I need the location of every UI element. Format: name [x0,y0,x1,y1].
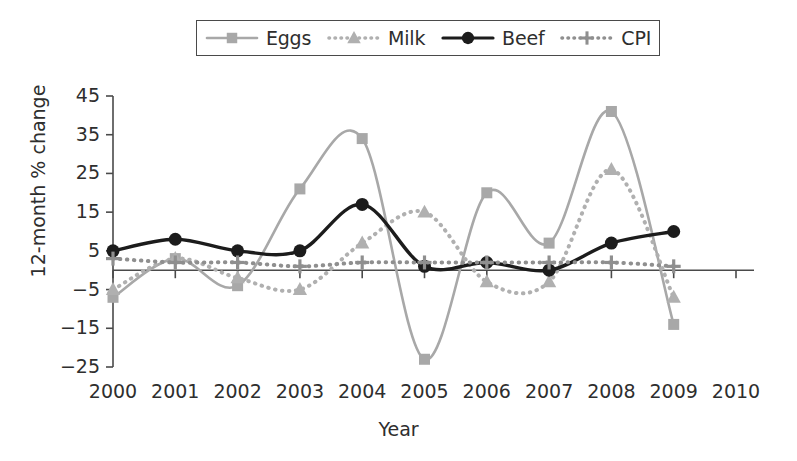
data-point-cpi [667,259,681,273]
x-tick-label: 2007 [516,380,582,402]
data-point-beef [356,198,369,211]
data-point-eggs [294,183,305,194]
data-point-milk [230,270,244,283]
data-point-milk [604,162,618,175]
data-point-eggs [357,133,368,144]
y-tick-label: 45 [40,84,100,106]
y-tick-label: 5 [40,239,100,261]
x-tick-label: 2001 [142,380,208,402]
x-tick-label: 2002 [205,380,271,402]
data-point-cpi [293,259,307,273]
data-point-milk [667,290,681,303]
x-tick-label: 2008 [578,380,644,402]
y-tick-label: 15 [40,200,100,222]
data-point-eggs [419,354,430,365]
x-tick-label: 2004 [329,380,395,402]
data-point-beef [169,233,182,246]
data-point-eggs [606,106,617,117]
data-point-cpi [231,255,245,269]
data-point-eggs [544,238,555,249]
x-tick-label: 2003 [267,380,333,402]
data-point-eggs [481,187,492,198]
x-tick-label: 2000 [80,380,146,402]
data-point-beef [231,244,244,257]
data-point-milk [355,236,369,249]
data-point-cpi [480,255,494,269]
x-tick-label: 2010 [703,380,769,402]
y-tick-label: −15 [40,316,100,338]
x-tick-label: 2009 [641,380,707,402]
data-point-beef [293,244,306,257]
y-tick-label: −25 [40,355,100,377]
data-point-beef [667,225,680,238]
y-tick-label: 35 [40,123,100,145]
data-point-cpi [355,255,369,269]
data-point-beef [605,237,618,250]
data-point-milk [480,274,494,287]
x-tick-label: 2006 [454,380,520,402]
y-tick-label: −5 [40,278,100,300]
y-tick-label: 25 [40,161,100,183]
data-point-cpi [604,255,618,269]
data-point-eggs [668,319,679,330]
chart-container: EggsMilkBeefCPI 12-month % change Year 4… [0,0,797,461]
data-point-milk [106,282,120,295]
x-tick-label: 2005 [392,380,458,402]
